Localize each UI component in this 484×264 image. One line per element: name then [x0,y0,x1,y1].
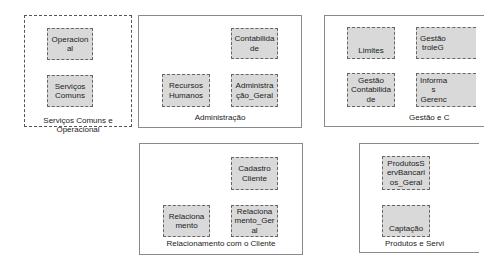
node-gestao-contabilidade[interactable]: Gestão Contabilida de [347,73,395,107]
node-label: Operacion al [52,35,89,54]
group-label-text: Administração [195,113,246,122]
node-relacionamento[interactable]: Relaciona mento [163,205,210,237]
group-label-text: Relacionamento com o Cliente [167,239,276,248]
group-label-gestao: Gestão e C [409,113,449,123]
node-label: Serviços Comuns [55,82,86,101]
node-captacao[interactable]: Captação [382,205,430,237]
node-label: Limites [358,46,383,56]
node-label: Administra ção_Geral [236,81,274,100]
node-produtos-serv-bancarios-geral[interactable]: ProdutosS ervBancari os_Geral [382,156,430,190]
group-label-text: Gestão e C [409,113,449,122]
node-recursos-humanos[interactable]: Recursos Humanos [162,74,210,107]
group-label-text: Produtos e Servi [385,239,444,248]
node-label: Recursos Humanos [169,81,203,100]
node-label: Captação [389,224,423,234]
group-label-relacionamento-cliente: Relacionamento com o Cliente [139,239,303,249]
node-administracao-geral[interactable]: Administra ção_Geral [231,74,278,107]
node-label: Relaciona mento [169,212,205,231]
group-label-text: Serviços Comuns e Operacional [43,116,112,135]
group-label-servicos-comuns-operacional: Serviços Comuns e Operacional [24,106,132,135]
node-informacoes-gerenciais[interactable]: Informa s Gerenc [416,73,476,107]
node-label: ProdutosS ervBancari os_Geral [387,159,425,188]
node-gestao-controle[interactable]: Gestão troleG [416,27,476,59]
node-servicos-comuns[interactable]: Serviços Comuns [47,75,93,107]
group-label-produtos-servicos: Produtos e Servi [385,239,444,249]
node-label: Relaciona mento_Ger al [234,207,274,236]
node-label: Gestão Contabilida de [351,76,391,105]
node-limites[interactable]: Limites [347,27,395,59]
node-relacionamento-geral[interactable]: Relaciona mento_Ger al [231,205,278,237]
group-label-administracao: Administração [138,113,302,123]
node-label: Cadastro Cliente [238,164,270,183]
node-label: Informa s Gerenc [420,76,447,105]
node-cadastro-cliente[interactable]: Cadastro Cliente [231,157,278,190]
node-label: Contabilida de [234,34,274,53]
node-contabilidade[interactable]: Contabilida de [231,28,278,59]
node-label: Gestão troleG [420,34,446,53]
node-operacional[interactable]: Operacion al [47,28,93,60]
